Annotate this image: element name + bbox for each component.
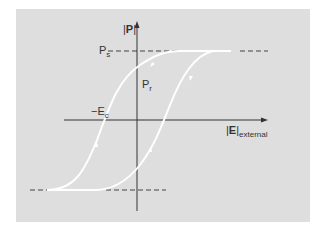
remanent-polarization-label: Pr	[142, 79, 152, 93]
x-axis-label: |E|external	[226, 125, 268, 139]
saturation-polarization-label: Ps	[99, 45, 110, 59]
x-axis-arrow-icon	[261, 118, 268, 123]
coercive-field-label: −Ec	[91, 106, 109, 120]
direction-arrow-icon	[150, 62, 155, 67]
direction-arrow-icon	[189, 76, 193, 81]
y-axis-label: |P|	[123, 24, 136, 35]
hysteresis-diagram	[0, 0, 318, 232]
